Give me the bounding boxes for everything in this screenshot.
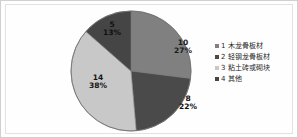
legend-item-1[interactable]: 1 木龙骨板材 <box>215 41 295 51</box>
pie-slice-4-percent: 13% <box>95 29 129 37</box>
legend-swatch-icon-3 <box>215 66 219 70</box>
pie-slice-1-label: 10 27% <box>165 39 201 55</box>
pie-slice-3-percent: 38% <box>81 82 115 90</box>
pie-slice-4-label: 5 13% <box>95 21 129 37</box>
pie-slice-1-percent: 27% <box>165 47 201 55</box>
legend-label-3: 3 粘土砖或砌块 <box>221 65 270 72</box>
chart-legend: 1 木龙骨板材 2 轻钢龙骨板材 3 粘土砖或砌块 4 其他 <box>215 41 295 85</box>
pie-slices <box>71 11 191 131</box>
pie-slice-2-percent: 22% <box>171 103 205 111</box>
legend-label-4: 4 其他 <box>221 76 242 83</box>
legend-item-4[interactable]: 4 其他 <box>215 74 295 84</box>
legend-item-3[interactable]: 3 粘土砖或砌块 <box>215 63 295 73</box>
legend-swatch-icon-2 <box>215 55 219 59</box>
legend-label-1: 1 木龙骨板材 <box>221 43 263 50</box>
legend-item-2[interactable]: 2 轻钢龙骨板材 <box>215 52 295 62</box>
pie-slice-2-label: 8 22% <box>171 95 205 111</box>
legend-swatch-icon-4 <box>215 77 219 81</box>
pie-chart-svg <box>53 7 209 135</box>
chart-figure: 10 27% 8 22% 14 38% 5 13% 1 木龙骨板材 2 轻钢龙骨… <box>0 0 298 138</box>
legend-label-2: 2 轻钢龙骨板材 <box>221 54 270 61</box>
pie-slice-3-label: 14 38% <box>81 74 115 90</box>
legend-swatch-icon-1 <box>215 44 219 48</box>
pie-chart-plot-area: 10 27% 8 22% 14 38% 5 13% <box>53 7 209 135</box>
